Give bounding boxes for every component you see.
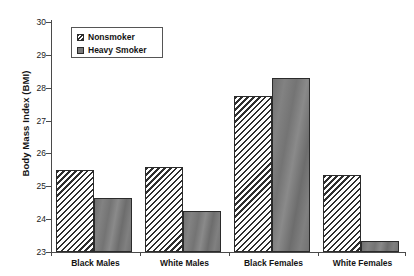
x-tick-mark: [318, 252, 319, 256]
x-tick-mark: [405, 252, 406, 256]
y-tick-label: 26: [16, 149, 46, 158]
legend-label: Heavy Smoker: [88, 46, 147, 55]
y-tick-label: 29: [16, 51, 46, 60]
x-axis-category-label: Black Males: [51, 258, 140, 268]
chart-legend: Nonsmoker Heavy Smoker: [71, 27, 163, 58]
bar-white-females-nonsmoker: [323, 175, 361, 252]
y-tick-mark: [46, 121, 51, 122]
y-tick-label: 24: [16, 215, 46, 224]
y-tick-mark: [46, 153, 51, 154]
y-tick-mark: [46, 22, 51, 23]
solid-gray-swatch-icon: [77, 47, 84, 54]
y-tick-label: 28: [16, 84, 46, 93]
y-tick-label: 25: [16, 182, 46, 191]
y-tick-label: 30: [16, 18, 46, 27]
y-axis-tick-labels: 30 29 28 27 26 25 24 23: [12, 22, 46, 252]
y-tick-mark: [46, 88, 51, 89]
bar-black-males-heavy-smoker: [94, 198, 132, 252]
bar-white-males-nonsmoker: [145, 167, 183, 252]
bar-black-males-nonsmoker: [56, 170, 94, 252]
bar-white-females-heavy-smoker: [361, 241, 399, 253]
x-tick-mark: [51, 252, 52, 256]
bar-black-females-heavy-smoker: [272, 78, 310, 252]
bar-black-females-nonsmoker: [234, 96, 272, 252]
legend-item-heavy-smoker: Heavy Smoker: [77, 44, 158, 56]
bar-white-males-heavy-smoker: [183, 211, 221, 252]
y-tick-label: 27: [16, 117, 46, 126]
x-axis-category-label: White Males: [140, 258, 229, 268]
y-tick-mark: [46, 186, 51, 187]
legend-item-nonsmoker: Nonsmoker: [77, 31, 158, 43]
legend-label: Nonsmoker: [88, 33, 135, 42]
bmi-bar-chart: Body Mass Index (BMI) 30 29 28 27 26 25 …: [0, 0, 414, 276]
y-tick-mark: [46, 219, 51, 220]
hatched-swatch-icon: [77, 34, 84, 41]
x-tick-mark: [229, 252, 230, 256]
y-tick-mark: [46, 55, 51, 56]
x-tick-mark: [140, 252, 141, 256]
x-axis-category-label: White Females: [318, 258, 407, 268]
y-tick-label: 23: [16, 248, 46, 257]
x-axis-category-label: Black Females: [229, 258, 318, 268]
